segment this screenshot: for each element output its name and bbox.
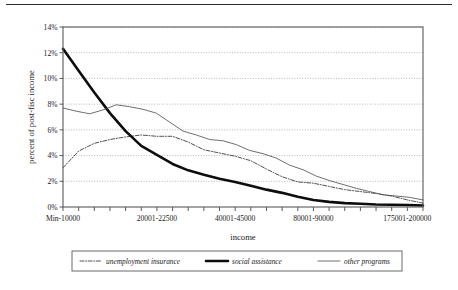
legend-entries-group: unemployment insurancesocial assistanceo… — [80, 257, 390, 266]
y-axis-ticks-group: 0%2%4%6%8%10%12%14% — [44, 23, 63, 212]
y-axis-tick-label: 14% — [44, 23, 59, 32]
line-chart: 0%2%4%6%8%10%12%14% Min-1000020001-22500… — [0, 0, 458, 290]
x-axis-tick-labels-group: Min-1000020001-2250040001-4500080001-900… — [46, 214, 432, 223]
y-axis-tick-label: 6% — [47, 126, 58, 135]
x-axis-tick-label: Min-10000 — [46, 214, 80, 223]
x-axis-title: income — [230, 232, 255, 242]
y-axis-tick-label: 8% — [47, 100, 58, 109]
x-axis-tick-label: 40001-45000 — [215, 214, 256, 223]
y-axis-tick-label: 10% — [44, 74, 59, 83]
y-axis-title: percent of post-fisc income — [26, 70, 36, 164]
y-axis-tick-label: 4% — [47, 151, 58, 160]
legend-label: other programs — [344, 257, 390, 266]
legend-label: social assistance — [232, 257, 283, 266]
plot-area-background — [63, 27, 423, 207]
y-axis-tick-label: 0% — [47, 203, 58, 212]
x-axis-tick-label: 175001-200000 — [383, 214, 431, 223]
legend-label: unemployment insurance — [106, 257, 181, 266]
header-divider-rule — [6, 4, 452, 5]
x-axis-tick-label: 20001-22500 — [137, 214, 178, 223]
y-axis-tick-label: 2% — [47, 177, 58, 186]
y-axis-tick-label: 12% — [44, 49, 59, 58]
x-axis-tick-label: 80001-90000 — [293, 214, 334, 223]
x-axis-ticks-group — [63, 207, 423, 211]
figure-container: 0%2%4%6%8%10%12%14% Min-1000020001-22500… — [0, 0, 458, 290]
